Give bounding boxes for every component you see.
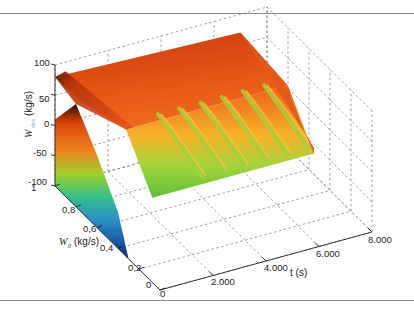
z-tick-label: 50 <box>39 93 50 104</box>
w0-tick-label: 0,4 <box>100 242 113 253</box>
w0-axis-label-unit: (kg/s) <box>74 236 99 247</box>
z-tick <box>51 125 55 126</box>
w0-tick-label: 0 <box>146 279 151 290</box>
w0-axis-label-sub: 0 <box>68 243 71 249</box>
z-axis-label: W diss (kg/s) <box>23 91 36 138</box>
t-tick-label: 6.000 <box>316 248 340 259</box>
t-tick <box>262 257 266 261</box>
w0-axis-label: W 0 (kg/s) <box>59 236 99 249</box>
t-tick-label: 0 <box>160 288 165 299</box>
z-axis-label-unit: (kg/s) <box>23 91 34 116</box>
z-tick <box>51 185 55 186</box>
z-tick-label: 100 <box>34 57 50 68</box>
floor-gridline-w0 <box>118 190 330 248</box>
t-tick-label: 4.000 <box>264 262 288 273</box>
t-tick <box>209 272 213 276</box>
w0-tick-label: 1 <box>31 182 36 193</box>
z-tick <box>51 94 55 95</box>
t-tick-label: 8.000 <box>368 234 392 245</box>
t-tick <box>368 228 372 232</box>
w0-tick-label: 0,8 <box>62 204 75 215</box>
t-tick <box>315 243 319 247</box>
z-tick <box>51 155 55 156</box>
z-tick-label: -50 <box>33 147 47 158</box>
z-tick-label: 0 <box>44 118 49 129</box>
surface-chart: 100 50 0 -50 -100 W diss (kg/s) 1 0,8 0,… <box>0 0 414 315</box>
z-axis-label-sub: diss <box>30 119 36 128</box>
t-axis-label: t (s) <box>290 267 307 278</box>
floor-gridline-w0 <box>139 211 351 269</box>
t-tick-label: 2.000 <box>211 276 235 287</box>
w0-tick-label: 0,6 <box>83 223 96 234</box>
z-axis-label-main: W <box>23 128 34 138</box>
w0-tick-label: 0,2 <box>128 262 141 273</box>
z-tick <box>51 64 55 65</box>
